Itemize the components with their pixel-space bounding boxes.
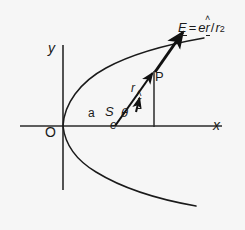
- field-formula: E = e ˄ r / r 2: [178, 21, 225, 36]
- formula-equals-sign: =: [187, 21, 199, 34]
- x-axis-label: x: [213, 118, 220, 132]
- formula-field-symbol: E: [178, 21, 187, 36]
- point-P-label: P: [155, 70, 164, 83]
- parabola-lower-branch: [63, 126, 196, 206]
- charge-label-e: e: [110, 119, 117, 131]
- formula-hat-accent-icon: ˄: [205, 14, 210, 23]
- focus-label-S: S: [105, 105, 114, 118]
- y-axis-label: y: [48, 41, 55, 55]
- formula-denominator-exponent: 2: [220, 25, 225, 34]
- electric-field-vector-E: [155, 32, 183, 72]
- formula-unit-vector: ˄ r: [206, 21, 210, 36]
- origin-label: O: [45, 125, 56, 139]
- hat-accent-icon: ˄: [136, 89, 142, 99]
- radius-label-r: r: [131, 82, 135, 94]
- physics-diagram-parabola-field: y x O P a S e θ r ˄ r E = e ˄ r / r 2: [0, 0, 245, 230]
- semi-latus-rectum-label-a: a: [88, 107, 95, 119]
- angle-label-theta: θ: [121, 106, 128, 119]
- unit-vector-r-hat-label: ˄ r: [137, 95, 141, 109]
